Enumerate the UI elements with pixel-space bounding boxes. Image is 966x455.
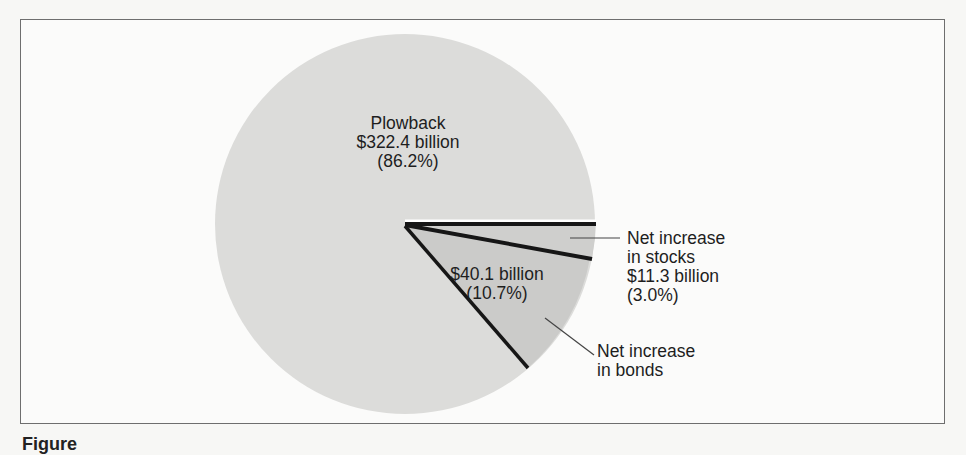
bonds-callout-line2: in bonds (597, 361, 695, 380)
figure-caption: Figure (22, 434, 77, 455)
stocks-percent: (3.0%) (627, 286, 725, 305)
bonds-percent: (10.7%) (432, 284, 562, 303)
plowback-label: Plowback $322.4 billion (86.2%) (298, 114, 518, 171)
stocks-callout-line2: in stocks (627, 248, 725, 267)
plowback-percent: (86.2%) (298, 152, 518, 171)
stocks-value: $11.3 billion (627, 267, 725, 286)
stocks-callout-line1: Net increase (627, 229, 725, 248)
bonds-value: $40.1 billion (432, 265, 562, 284)
bonds-callout-line1: Net increase (597, 342, 695, 361)
bonds-callout: Net increase in bonds (597, 342, 695, 380)
plowback-name: Plowback (298, 114, 518, 133)
stocks-callout: Net increase in stocks $11.3 billion (3.… (627, 229, 725, 305)
bonds-inside-label: $40.1 billion (10.7%) (432, 265, 562, 303)
plowback-value: $322.4 billion (298, 133, 518, 152)
